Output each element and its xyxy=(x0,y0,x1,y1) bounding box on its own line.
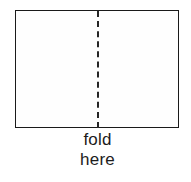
fold-line xyxy=(97,11,99,128)
fold-diagram: fold here xyxy=(0,0,191,182)
caption-line-here: here xyxy=(0,151,191,168)
fold-caption: fold here xyxy=(0,131,191,168)
caption-line-fold: fold xyxy=(0,131,191,148)
